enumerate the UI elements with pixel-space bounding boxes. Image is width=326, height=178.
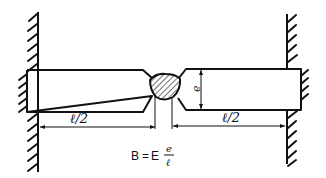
weld-diagram: e ℓ/2 ℓ/2 B = E e ℓ — [0, 0, 326, 178]
left-fixed-wall — [19, 12, 38, 172]
left-half-length-label: ℓ/2 — [70, 111, 88, 126]
formula-coefficient: E — [151, 149, 159, 163]
left-bar — [27, 70, 152, 112]
thickness-label: e — [190, 85, 203, 92]
weld-bead — [150, 74, 180, 100]
left-half-length-dimension: ℓ/2 — [40, 111, 155, 129]
formula-denominator: ℓ — [166, 157, 170, 168]
formula-numerator: e — [166, 143, 172, 154]
formula: B = E e ℓ — [131, 143, 174, 168]
formula-equals: = — [142, 149, 149, 163]
right-half-length-label: ℓ/2 — [222, 110, 240, 125]
formula-lhs: B — [131, 149, 139, 163]
right-half-length-dimension: ℓ/2 — [173, 110, 285, 128]
